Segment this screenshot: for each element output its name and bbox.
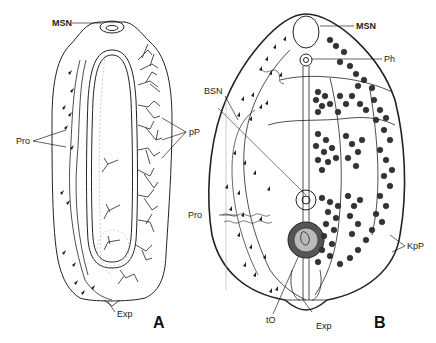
panel-b-drawing xyxy=(209,14,405,310)
panel-b-label-ph: Ph xyxy=(384,55,395,64)
panel-b-label-pro: Pro xyxy=(188,211,202,220)
panel-b-body-outline xyxy=(209,14,405,310)
panel-b-letter: B xyxy=(374,315,386,331)
panel-a-label-pro: Pro xyxy=(16,137,30,146)
panel-b-label-kpp: KpP xyxy=(407,242,424,251)
panel-a-label-pp: pP xyxy=(189,128,200,137)
panel-b-label-exp: Exp xyxy=(316,322,332,331)
diagram-canvas xyxy=(0,0,436,343)
panel-b-oral-sucker xyxy=(293,16,319,48)
panel-b-ventral-sucker xyxy=(296,190,316,210)
panel-b-flame-cells xyxy=(225,36,286,293)
panel-a-drawing xyxy=(52,21,172,306)
panel-b-label-bsn: BSN xyxy=(204,87,223,96)
panel-a-letter: A xyxy=(153,315,165,331)
panel-a-gut-loop xyxy=(87,50,138,268)
panel-b-leaders xyxy=(219,26,405,314)
panel-b-label-to: tO xyxy=(266,316,276,325)
panel-a-leaders xyxy=(33,23,186,312)
panel-a-label-msn: MSN xyxy=(52,19,72,28)
panel-a-mouth-sucker xyxy=(100,21,124,33)
panel-b-label-msn: MSN xyxy=(356,22,376,31)
panel-a-label-exp: Exp xyxy=(117,310,133,319)
panel-b-pharynx xyxy=(300,54,312,66)
